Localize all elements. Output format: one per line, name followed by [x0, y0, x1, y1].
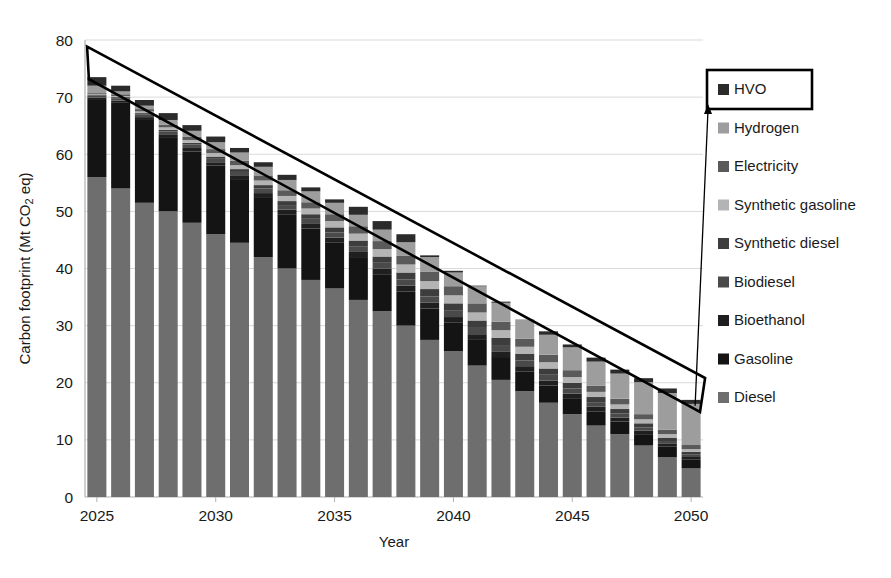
bar-segment-2026-gasoline[interactable]	[111, 103, 130, 189]
bar-segment-2050-synthetic-gasoline[interactable]	[682, 449, 701, 452]
bar-segment-2035-diesel[interactable]	[325, 288, 344, 497]
bar-segment-2033-biodiesel[interactable]	[278, 205, 297, 210]
bar-2049[interactable]	[658, 388, 677, 497]
bar-segment-2042-bioethanol[interactable]	[491, 351, 510, 357]
bar-segment-2044-synthetic-diesel[interactable]	[539, 368, 558, 374]
bar-segment-2049-biodiesel[interactable]	[658, 441, 677, 444]
bar-segment-2040-synthetic-diesel[interactable]	[444, 303, 463, 310]
bar-segment-2036-gasoline[interactable]	[349, 257, 368, 300]
bar-segment-2047-biodiesel[interactable]	[610, 414, 629, 418]
bar-segment-2033-diesel[interactable]	[278, 269, 297, 498]
bar-segment-2039-synthetic-diesel[interactable]	[420, 289, 439, 296]
bar-segment-2028-gasoline[interactable]	[159, 137, 178, 211]
bar-segment-2043-synthetic-gasoline[interactable]	[515, 347, 534, 354]
bar-segment-2034-synthetic-diesel[interactable]	[301, 214, 320, 219]
bar-segment-2025-diesel[interactable]	[87, 177, 106, 497]
bar-segment-2025-gasoline[interactable]	[87, 100, 106, 177]
bar-segment-2044-electricity[interactable]	[539, 355, 558, 362]
bar-segment-2048-hydrogen[interactable]	[634, 382, 653, 414]
bar-segment-2041-synthetic-diesel[interactable]	[468, 320, 487, 327]
bar-segment-2037-diesel[interactable]	[373, 311, 392, 497]
bar-segment-2029-gasoline[interactable]	[182, 151, 201, 222]
bar-segment-2026-hvo[interactable]	[111, 86, 130, 92]
bar-segment-2031-synthetic-diesel[interactable]	[230, 169, 249, 172]
bar-segment-2049-synthetic-gasoline[interactable]	[658, 434, 677, 437]
bar-segment-2031-biodiesel[interactable]	[230, 172, 249, 176]
bar-segment-2044-gasoline[interactable]	[539, 386, 558, 403]
bar-segment-2049-diesel[interactable]	[658, 457, 677, 497]
bar-segment-2047-hydrogen[interactable]	[610, 374, 629, 399]
bar-segment-2028-synthetic-gasoline[interactable]	[159, 127, 178, 129]
bar-segment-2040-hvo[interactable]	[444, 271, 463, 273]
bar-segment-2041-biodiesel[interactable]	[468, 328, 487, 334]
bar-segment-2044-bioethanol[interactable]	[539, 380, 558, 385]
bar-segment-2025-synthetic-gasoline[interactable]	[87, 94, 106, 95]
bar-segment-2045-gasoline[interactable]	[563, 398, 582, 414]
bar-segment-2043-bioethanol[interactable]	[515, 366, 534, 371]
bar-segment-2028-synthetic-diesel[interactable]	[159, 130, 178, 132]
bar-segment-2035-gasoline[interactable]	[325, 243, 344, 289]
bar-segment-2040-biodiesel[interactable]	[444, 311, 463, 317]
bar-segment-2046-electricity[interactable]	[587, 386, 606, 392]
bar-segment-2030-synthetic-diesel[interactable]	[206, 157, 225, 159]
bar-segment-2030-biodiesel[interactable]	[206, 159, 225, 162]
bar-segment-2049-gasoline[interactable]	[658, 447, 677, 457]
bar-segment-2035-hvo[interactable]	[325, 199, 344, 202]
bar-2027[interactable]	[135, 100, 154, 497]
bar-segment-2044-diesel[interactable]	[539, 403, 558, 497]
bar-segment-2039-synthetic-gasoline[interactable]	[420, 281, 439, 289]
bar-segment-2029-bioethanol[interactable]	[182, 148, 201, 151]
bar-segment-2041-gasoline[interactable]	[468, 340, 487, 366]
bar-segment-2033-synthetic-gasoline[interactable]	[278, 196, 297, 201]
bar-segment-2038-hvo[interactable]	[396, 234, 415, 242]
bar-segment-2045-diesel[interactable]	[563, 414, 582, 497]
bar-segment-2027-gasoline[interactable]	[135, 120, 154, 203]
bar-2046[interactable]	[587, 358, 606, 497]
bar-segment-2031-hvo[interactable]	[230, 148, 249, 153]
bar-segment-2044-hydrogen[interactable]	[539, 335, 558, 355]
bar-segment-2034-hvo[interactable]	[301, 187, 320, 191]
bar-2039[interactable]	[420, 255, 439, 497]
bar-segment-2034-gasoline[interactable]	[301, 229, 320, 280]
bar-2026[interactable]	[111, 86, 130, 497]
bar-segment-2027-diesel[interactable]	[135, 203, 154, 497]
bar-segment-2050-synthetic-diesel[interactable]	[682, 452, 701, 455]
bar-segment-2044-biodiesel[interactable]	[539, 375, 558, 381]
bar-segment-2036-bioethanol[interactable]	[349, 252, 368, 257]
bar-segment-2032-synthetic-gasoline[interactable]	[254, 181, 273, 186]
bar-segment-2034-biodiesel[interactable]	[301, 219, 320, 224]
bar-segment-2047-synthetic-gasoline[interactable]	[610, 404, 629, 409]
bar-segment-2047-gasoline[interactable]	[610, 422, 629, 435]
bar-segment-2027-biodiesel[interactable]	[135, 114, 154, 117]
bar-segment-2049-synthetic-diesel[interactable]	[658, 438, 677, 441]
bar-2037[interactable]	[373, 221, 392, 497]
bar-segment-2048-synthetic-gasoline[interactable]	[634, 419, 653, 423]
bar-segment-2025-synthetic-diesel[interactable]	[87, 95, 106, 96]
bar-segment-2033-hydrogen[interactable]	[278, 180, 297, 190]
bar-2033[interactable]	[278, 175, 297, 497]
bar-segment-2033-bioethanol[interactable]	[278, 210, 297, 215]
bar-segment-2039-biodiesel[interactable]	[420, 296, 439, 302]
bar-segment-2031-diesel[interactable]	[230, 243, 249, 497]
bar-segment-2035-synthetic-diesel[interactable]	[325, 227, 344, 232]
bar-segment-2043-diesel[interactable]	[515, 391, 534, 497]
bar-segment-2035-synthetic-gasoline[interactable]	[325, 221, 344, 227]
bar-segment-2046-hydrogen[interactable]	[587, 362, 606, 386]
bar-segment-2045-synthetic-diesel[interactable]	[563, 383, 582, 389]
bar-segment-2041-diesel[interactable]	[468, 366, 487, 497]
bar-segment-2036-synthetic-gasoline[interactable]	[349, 234, 368, 241]
bar-segment-2034-synthetic-gasoline[interactable]	[301, 209, 320, 215]
bar-segment-2028-diesel[interactable]	[159, 211, 178, 497]
bar-segment-2050-electricity[interactable]	[682, 445, 701, 449]
bar-segment-2033-hvo[interactable]	[278, 175, 297, 180]
bar-segment-2040-bioethanol[interactable]	[444, 317, 463, 323]
bar-segment-2046-synthetic-gasoline[interactable]	[587, 392, 606, 397]
bar-segment-2037-hvo[interactable]	[373, 221, 392, 230]
bar-segment-2048-biodiesel[interactable]	[634, 427, 653, 430]
bar-segment-2045-biodiesel[interactable]	[563, 388, 582, 393]
legend-item-bioethanol[interactable]: Bioethanol	[718, 311, 805, 328]
bar-2038[interactable]	[396, 234, 415, 497]
bar-segment-2043-electricity[interactable]	[515, 339, 534, 347]
legend-item-hydrogen[interactable]: Hydrogen	[718, 119, 799, 136]
bar-2050[interactable]	[682, 400, 701, 497]
